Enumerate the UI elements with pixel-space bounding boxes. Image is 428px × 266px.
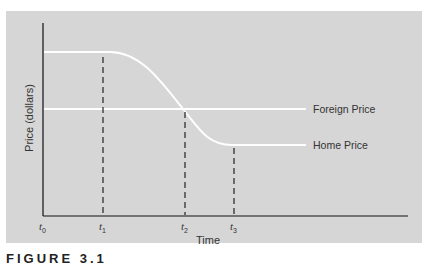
- chart-canvas: [0, 0, 428, 266]
- figure-caption: FIGURE 3.1: [6, 251, 107, 266]
- tick-t2: t2: [181, 220, 188, 234]
- x-axis-label: Time: [196, 234, 220, 246]
- foreign-price-label: Foreign Price: [313, 103, 375, 115]
- tick-t3: t3: [230, 220, 237, 234]
- tick-t0: t0: [39, 220, 46, 234]
- tick-t1: t1: [99, 220, 106, 234]
- home-price-line: [44, 52, 306, 145]
- y-axis-label: Price (dollars): [23, 73, 35, 163]
- home-price-label: Home Price: [313, 139, 368, 151]
